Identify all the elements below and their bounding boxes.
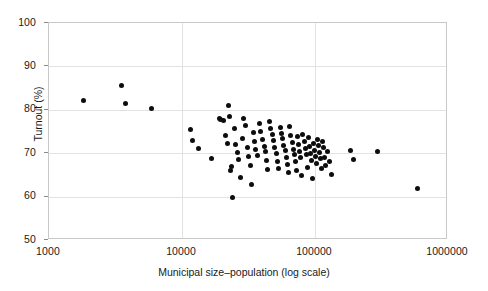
scatter-point bbox=[314, 161, 319, 166]
scatter-point bbox=[264, 158, 269, 163]
scatter-point bbox=[232, 126, 237, 131]
scatter-point bbox=[292, 152, 297, 157]
y-axis-tick-label: 90 bbox=[0, 60, 36, 70]
scatter-point bbox=[262, 144, 267, 149]
scatter-point bbox=[225, 141, 230, 146]
scatter-point bbox=[299, 173, 304, 178]
x-axis-tick-label: 100000 bbox=[274, 245, 354, 257]
scatter-point bbox=[300, 132, 305, 137]
scatter-point bbox=[268, 126, 273, 131]
scatter-point bbox=[123, 101, 128, 106]
plot-area bbox=[48, 22, 447, 239]
scatter-point bbox=[302, 139, 307, 144]
scatter-point bbox=[270, 132, 275, 137]
y-axis-tick-label: 50 bbox=[0, 234, 36, 244]
scatter-point bbox=[275, 159, 280, 164]
scatter-point bbox=[290, 140, 295, 145]
scatter-point bbox=[265, 167, 270, 172]
scatter-point bbox=[278, 125, 283, 130]
scatter-point bbox=[245, 145, 250, 150]
scatter-point bbox=[288, 133, 293, 138]
scatter-chart-figure: 100 90 80 70 60 50 1000 10000 100000 100… bbox=[0, 0, 488, 291]
scatter-point bbox=[226, 103, 231, 108]
scatter-point bbox=[287, 124, 292, 129]
scatter-point bbox=[233, 142, 238, 147]
scatter-point bbox=[246, 154, 251, 159]
scatter-point bbox=[329, 172, 334, 177]
scatter-point bbox=[284, 155, 289, 160]
scatter-point bbox=[241, 116, 246, 121]
scatter-point bbox=[283, 148, 288, 153]
scatter-point bbox=[294, 168, 299, 173]
y-axis-title: Turnout (%) bbox=[32, 54, 44, 174]
scatter-point bbox=[285, 162, 290, 167]
scatter-point bbox=[271, 138, 276, 143]
y-axis-tick-label: 60 bbox=[0, 190, 36, 200]
scatter-point bbox=[257, 121, 262, 126]
scatter-point bbox=[260, 137, 265, 142]
gridline-vertical bbox=[315, 23, 316, 238]
scatter-point bbox=[320, 139, 325, 144]
scatter-point bbox=[274, 151, 279, 156]
scatter-point bbox=[279, 131, 284, 136]
scatter-point bbox=[196, 146, 201, 151]
gridline-vertical bbox=[182, 23, 183, 238]
scatter-point bbox=[119, 83, 124, 88]
y-axis-tick-label: 100 bbox=[0, 17, 36, 27]
scatter-point bbox=[306, 135, 311, 140]
scatter-point bbox=[251, 130, 256, 135]
scatter-point bbox=[252, 139, 257, 144]
scatter-point bbox=[272, 145, 277, 150]
scatter-point bbox=[322, 155, 327, 160]
scatter-point bbox=[351, 157, 356, 162]
y-axis-tick-label: 80 bbox=[0, 103, 36, 113]
scatter-point bbox=[293, 159, 298, 164]
y-axis-tick-label: 70 bbox=[0, 147, 36, 157]
gridline-horizontal bbox=[49, 197, 446, 198]
scatter-point bbox=[236, 157, 241, 162]
scatter-point bbox=[298, 155, 303, 160]
scatter-point bbox=[229, 164, 234, 169]
scatter-point bbox=[276, 166, 281, 171]
scatter-point bbox=[243, 123, 248, 128]
scatter-point bbox=[235, 150, 240, 155]
scatter-point bbox=[291, 147, 296, 152]
scatter-point bbox=[227, 114, 232, 119]
scatter-point bbox=[240, 136, 245, 141]
scatter-point bbox=[323, 163, 328, 168]
scatter-point bbox=[286, 170, 291, 175]
scatter-point bbox=[415, 186, 420, 191]
scatter-point bbox=[223, 133, 228, 138]
x-axis-title: Municipal size–population (log scale) bbox=[0, 266, 488, 278]
scatter-point bbox=[221, 118, 226, 123]
y-axis-tick-mark bbox=[44, 239, 48, 240]
gridline-horizontal bbox=[49, 110, 446, 111]
scatter-point bbox=[188, 127, 193, 132]
scatter-point bbox=[295, 134, 300, 139]
scatter-point bbox=[81, 98, 86, 103]
x-axis-tick-label: 10000 bbox=[141, 245, 221, 257]
scatter-point bbox=[325, 149, 330, 154]
scatter-point bbox=[190, 138, 195, 143]
scatter-point bbox=[317, 150, 322, 155]
x-axis-tick-label: 1000000 bbox=[407, 245, 487, 257]
scatter-point bbox=[238, 175, 243, 180]
scatter-point bbox=[248, 163, 253, 168]
scatter-point bbox=[327, 159, 332, 164]
scatter-point bbox=[228, 168, 233, 173]
scatter-point bbox=[255, 153, 260, 158]
scatter-point bbox=[305, 165, 310, 170]
scatter-point bbox=[249, 182, 254, 187]
scatter-point bbox=[280, 136, 285, 141]
scatter-point bbox=[296, 142, 301, 147]
scatter-point bbox=[267, 119, 272, 124]
scatter-point bbox=[253, 147, 258, 152]
scatter-point bbox=[258, 129, 263, 134]
x-axis-tick-label: 1000 bbox=[8, 245, 88, 257]
gridline-horizontal bbox=[49, 66, 446, 67]
scatter-point bbox=[230, 195, 235, 200]
scatter-point bbox=[149, 106, 154, 111]
scatter-point bbox=[209, 156, 214, 161]
